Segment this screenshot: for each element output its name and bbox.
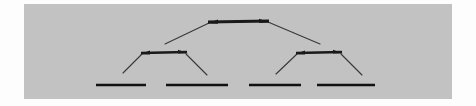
branch-line-right-to-leaf3 bbox=[276, 54, 297, 74]
right-internal-node bbox=[295, 50, 343, 55]
branch-line-root-to-left bbox=[165, 23, 209, 44]
root-node bbox=[207, 19, 270, 24]
screenshot-root bbox=[0, 0, 476, 106]
diagram-panel bbox=[24, 4, 452, 99]
branch-line-right-to-leaf4 bbox=[341, 54, 362, 75]
branch-line-left-to-leaf1 bbox=[123, 54, 142, 73]
branch-line-group bbox=[123, 22, 362, 75]
branch-line-root-to-right bbox=[268, 22, 320, 44]
binary-tree-diagram bbox=[24, 4, 452, 99]
left-internal-node bbox=[140, 50, 188, 55]
branch-line-left-to-leaf2 bbox=[186, 54, 207, 75]
